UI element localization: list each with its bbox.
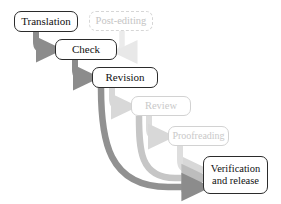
edge-check-to-revision [75,60,87,78]
node-check[interactable]: Check [55,39,117,60]
node-post-editing-label: Post-editing [96,15,147,27]
node-proofreading[interactable]: Proofreading [168,126,229,146]
node-translation[interactable]: Translation [14,11,78,32]
node-check-label: Check [72,43,100,55]
node-review-label: Review [145,100,177,112]
node-revision-label: Revision [105,71,144,83]
edge-revision-to-review [112,88,125,107]
node-verification-label-line2: and release [212,175,259,187]
node-verification-label-line1: Verification [211,163,261,175]
edge-proofreading-to-verification [180,146,197,170]
node-proofreading-label: Proofreading [172,130,224,141]
node-post-editing[interactable]: Post-editing [89,11,153,31]
edge-review-to-proofreading [149,116,162,137]
node-translation-label: Translation [21,15,71,27]
node-verification-and-release[interactable]: Verification and release [203,156,268,194]
edge-translation-to-check [36,32,50,50]
node-revision[interactable]: Revision [92,67,158,88]
node-review[interactable]: Review [131,96,191,116]
